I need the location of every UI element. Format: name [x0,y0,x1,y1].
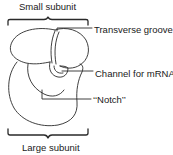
large-subunit-inner-contour [28,64,64,96]
ribosome-diagram: Small subunit Transverse groove Channel … [0,0,173,155]
large-subunit-label: Large subunit [22,142,80,153]
large-subunit-outline [9,62,83,126]
small-subunit-right-lobe [55,28,88,68]
transverse-groove-label: Transverse groove [94,24,173,35]
mrna-channel-label: Channel for mRNA [95,68,173,79]
notch-label: ‘‘Notch’’ [93,94,126,105]
small-subunit-left-lobe [10,29,55,64]
small-subunit-label: Small subunit [19,1,76,12]
large-subunit-brace [8,129,88,138]
notch-leader-line [42,90,91,99]
small-subunit-brace [8,17,88,25]
mrna-channel [49,62,68,77]
groove-line-1 [51,31,55,63]
groove-line-2 [55,32,59,64]
